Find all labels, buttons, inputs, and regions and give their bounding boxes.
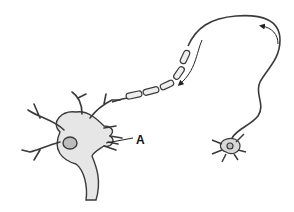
large-neuron (56, 112, 113, 200)
direction-arrow-icon (262, 26, 278, 44)
label-a: A (136, 133, 145, 147)
myelinated-axon (112, 49, 191, 102)
nucleus (63, 137, 77, 149)
small-neuron (212, 134, 246, 162)
axon-fiber (188, 16, 280, 138)
cell-body (56, 112, 113, 200)
neuron-diagram (0, 0, 294, 212)
